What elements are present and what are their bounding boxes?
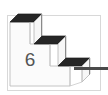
staircase-figure: 6 bbox=[0, 0, 108, 95]
bottom-step-riser-shade bbox=[89, 58, 90, 75]
top-step-riser-shade bbox=[41, 14, 42, 37]
step-count-label: 6 bbox=[25, 49, 36, 70]
staircase-illustration: 6 bbox=[0, 0, 108, 95]
middle-step-riser-shade bbox=[65, 36, 66, 59]
